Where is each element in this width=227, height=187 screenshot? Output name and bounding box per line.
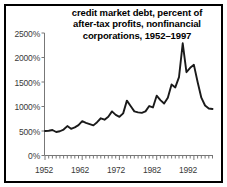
x-axis: [45, 156, 214, 161]
chart-plot-area: [0, 0, 227, 187]
data-series-line: [45, 43, 213, 132]
x-axis-tick-marks: [45, 156, 213, 161]
chart-figure: credit market debt, percent of after-tax…: [0, 0, 227, 187]
y-axis: [42, 33, 45, 156]
